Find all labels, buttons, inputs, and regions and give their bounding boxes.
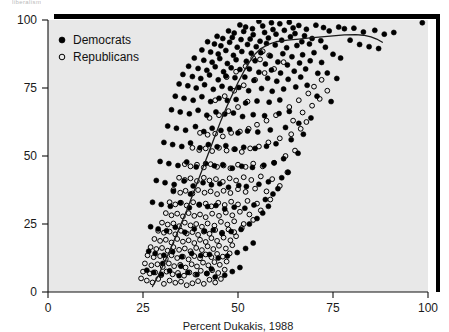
data-point-democrat — [274, 32, 279, 37]
data-point-democrat — [198, 76, 203, 81]
data-point-democrat — [187, 111, 192, 116]
data-point-democrat — [154, 178, 159, 183]
data-point-democrat — [159, 202, 164, 207]
data-point-democrat — [249, 51, 254, 56]
data-point-democrat — [256, 182, 261, 187]
data-point-democrat — [244, 184, 249, 189]
data-point-democrat — [305, 83, 310, 88]
y-tick-label: 0 — [30, 285, 37, 299]
data-point-democrat — [275, 59, 280, 64]
data-point-democrat — [269, 20, 274, 25]
data-point-democrat — [254, 44, 259, 49]
data-point-democrat — [338, 56, 343, 61]
data-point-democrat — [300, 52, 305, 57]
data-point-democrat — [235, 250, 240, 255]
data-point-democrat — [348, 38, 353, 43]
data-point-democrat — [291, 25, 296, 30]
data-point-democrat — [299, 39, 304, 44]
y-tick-label: 25 — [24, 217, 38, 231]
data-point-democrat — [255, 130, 260, 135]
data-point-democrat — [185, 83, 190, 88]
data-point-democrat — [251, 202, 256, 207]
data-point-democrat — [277, 97, 282, 102]
chart-canvas: 02550751000255075100Percent Dukakis, 198… — [0, 0, 449, 332]
data-point-democrat — [336, 25, 341, 30]
data-point-democrat — [372, 28, 377, 33]
data-point-democrat — [286, 77, 291, 82]
data-point-democrat — [199, 94, 204, 99]
data-point-democrat — [312, 50, 317, 55]
data-point-democrat — [218, 128, 223, 133]
data-point-democrat — [182, 96, 187, 101]
y-tick-label: 100 — [17, 13, 37, 27]
data-point-democrat — [220, 36, 225, 41]
data-point-democrat — [227, 40, 232, 45]
data-point-democrat — [246, 88, 251, 93]
data-point-democrat — [289, 54, 294, 59]
data-point-democrat — [277, 21, 282, 26]
data-point-democrat — [172, 182, 177, 187]
data-point-democrat — [218, 43, 223, 48]
data-point-democrat — [283, 125, 288, 130]
data-point-democrat — [216, 77, 221, 82]
data-point-democrat — [296, 121, 301, 126]
legend-marker-democrats — [59, 37, 65, 43]
data-point-democrat — [296, 151, 301, 156]
data-point-democrat — [169, 107, 174, 112]
data-point-democrat — [232, 75, 237, 80]
data-point-democrat — [165, 124, 170, 129]
data-point-democrat — [247, 222, 252, 227]
data-point-democrat — [201, 58, 206, 63]
data-point-democrat — [196, 108, 201, 113]
data-point-democrat — [239, 49, 244, 54]
data-point-democrat — [150, 200, 155, 205]
data-point-democrat — [323, 45, 328, 50]
data-point-democrat — [307, 41, 312, 46]
data-point-democrat — [318, 38, 323, 43]
data-point-democrat — [329, 99, 334, 104]
data-point-democrat — [420, 20, 425, 25]
data-point-democrat — [293, 84, 298, 89]
data-point-democrat — [289, 137, 294, 142]
data-point-democrat — [282, 28, 287, 33]
data-point-democrat — [226, 28, 231, 33]
data-point-democrat — [170, 142, 175, 147]
data-point-democrat — [251, 112, 256, 117]
data-point-democrat — [237, 22, 242, 27]
data-point-democrat — [220, 84, 225, 89]
data-point-democrat — [297, 60, 302, 65]
data-point-democrat — [231, 111, 236, 116]
data-point-democrat — [281, 87, 286, 92]
data-point-democrat — [204, 68, 209, 73]
data-point-democrat — [225, 61, 230, 66]
data-point-democrat — [229, 65, 234, 70]
data-point-democrat — [319, 60, 324, 65]
data-point-democrat — [211, 87, 216, 92]
data-point-democrat — [173, 94, 178, 99]
data-point-democrat — [260, 23, 265, 28]
data-point-democrat — [262, 30, 267, 35]
x-tick-label: 75 — [326, 301, 340, 315]
data-point-democrat — [279, 175, 284, 180]
data-point-democrat — [315, 71, 320, 76]
data-point-democrat — [266, 204, 271, 209]
data-point-democrat — [230, 269, 235, 274]
data-point-democrat — [193, 124, 198, 129]
x-tick-label: 100 — [418, 301, 438, 315]
data-point-democrat — [270, 27, 275, 32]
scatter-plot-figure: liberalism 02550751000255075100Percent D… — [0, 0, 449, 332]
data-point-democrat — [251, 241, 256, 246]
data-point-democrat — [361, 29, 366, 34]
data-point-democrat — [202, 82, 207, 87]
data-point-democrat — [201, 180, 206, 185]
data-point-democrat — [294, 43, 299, 48]
data-point-democrat — [308, 58, 313, 63]
data-point-democrat — [313, 23, 318, 28]
data-point-democrat — [325, 71, 330, 76]
data-point-democrat — [188, 140, 193, 145]
y-tick-label: 50 — [24, 149, 38, 163]
data-point-democrat — [240, 114, 245, 119]
data-point-democrat — [302, 33, 307, 38]
data-point-democrat — [256, 70, 261, 75]
data-point-democrat — [250, 26, 255, 31]
